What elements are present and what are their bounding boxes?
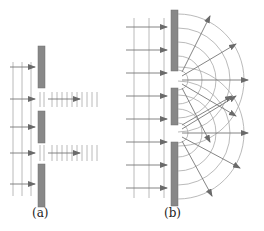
panel-b-label: (b) <box>164 206 181 220</box>
panel-a-label: (a) <box>32 206 49 220</box>
barrier-a <box>38 46 45 207</box>
diffracted-rays-b2 <box>182 96 248 196</box>
incident-wavefronts-a <box>13 62 31 196</box>
incident-wavefronts-b <box>134 18 164 198</box>
transmitted-wavefronts-a1 <box>40 92 97 107</box>
incident-rays-b <box>126 27 167 188</box>
barrier-b <box>171 10 178 206</box>
two-slit-diagram <box>0 0 264 231</box>
panel-a <box>10 46 97 207</box>
panel-b <box>126 10 248 206</box>
